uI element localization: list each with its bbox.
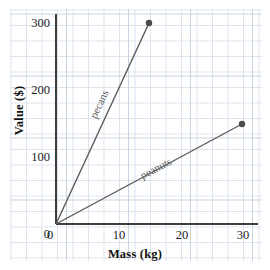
y-tick-label-300: 300 [18, 17, 50, 30]
y-axis-title: Value ($) [12, 66, 27, 156]
data-point-peanuts [239, 121, 245, 127]
chart-figure: 300 200 100 0 0 10 20 30 Mass (kg) Value… [0, 0, 270, 270]
x-tick-label-0: 0 [47, 229, 53, 242]
x-tick-label-30: 30 [237, 229, 250, 242]
x-tick-label-10: 10 [113, 229, 126, 242]
data-point-pecans [146, 20, 152, 26]
x-tick-label-20: 20 [176, 229, 189, 242]
series-line-pecans [56, 23, 149, 224]
y-tick-label-0: 0 [18, 228, 50, 241]
x-axis-title: Mass (kg) [0, 247, 270, 262]
